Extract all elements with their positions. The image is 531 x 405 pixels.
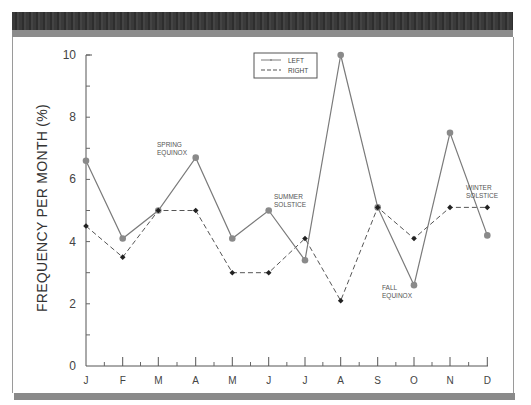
y-tick-label: 6 [69, 172, 76, 186]
annotation-label: EQUINOX [157, 149, 188, 157]
annotation-label: SUMMER [274, 193, 303, 200]
annotation-label: SOLSTICE [274, 201, 307, 208]
x-tick-label: O [410, 375, 418, 386]
x-tick-label: A [192, 375, 199, 386]
y-tick-label: 4 [69, 235, 76, 249]
left-marker [229, 235, 236, 242]
x-tick-label: M [154, 375, 162, 386]
x-tick-label: A [337, 375, 344, 386]
right-marker [485, 205, 491, 211]
left-marker [447, 129, 454, 136]
legend-box [254, 53, 317, 78]
left-marker [192, 154, 199, 161]
x-tick-label: F [120, 375, 126, 386]
right-marker [193, 208, 199, 214]
legend-right-label: RIGHT [288, 67, 308, 74]
x-tick-label: N [446, 375, 453, 386]
annotation-label: EQUINOX [382, 292, 413, 300]
line-chart: 0246810JFMAMJJASONDSPRINGEQUINOXSUMMERSO… [0, 0, 531, 405]
series-left-line [86, 55, 487, 285]
left-marker [302, 257, 309, 264]
y-axis-label: FREQUENCY PER MONTH (%) [34, 98, 50, 318]
x-tick-label: S [374, 375, 381, 386]
x-tick-label: J [266, 375, 271, 386]
left-marker [484, 232, 491, 239]
y-tick-label: 2 [69, 297, 76, 311]
y-tick-label: 8 [69, 110, 76, 124]
right-marker [447, 205, 453, 211]
right-marker [411, 236, 417, 242]
left-marker [337, 52, 344, 59]
right-marker [230, 270, 236, 276]
legend-left-label: LEFT [288, 57, 304, 64]
left-marker [119, 235, 126, 242]
y-tick-label: 10 [63, 48, 77, 62]
series-right-line [86, 207, 487, 300]
x-tick-label: D [484, 375, 491, 386]
left-marker [83, 157, 90, 164]
right-marker [338, 298, 344, 304]
legend-left-marker [270, 59, 272, 61]
x-tick-label: J [84, 375, 89, 386]
left-marker [265, 207, 272, 214]
annotation-label: FALL [382, 284, 398, 291]
annotation-label: SPRING [157, 141, 182, 148]
annotation-label: SOLSTICE [466, 192, 499, 199]
annotation-label: WINTER [466, 184, 492, 191]
right-marker [266, 270, 272, 276]
left-marker [411, 282, 418, 289]
x-tick-label: M [228, 375, 236, 386]
x-tick-label: J [303, 375, 308, 386]
y-tick-label: 0 [69, 359, 76, 373]
